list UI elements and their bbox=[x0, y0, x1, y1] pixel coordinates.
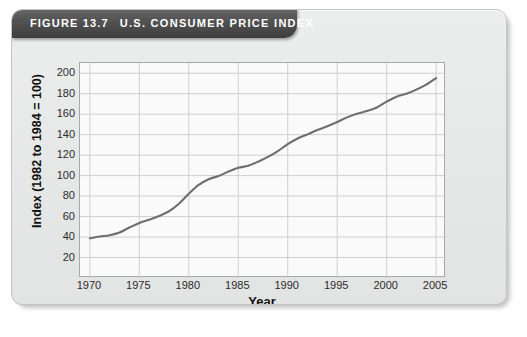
screenshot-root: FIGURE 13.7U.S. CONSUMER PRICE INDEX 204… bbox=[0, 0, 527, 337]
y-axis-tick-label: 180 bbox=[49, 87, 75, 99]
y-axis-tick-label: 100 bbox=[49, 169, 75, 181]
y-axis-tick-label: 200 bbox=[49, 66, 75, 78]
vertical-gridlines bbox=[90, 63, 436, 278]
x-axis-tick-label: 1975 bbox=[126, 279, 150, 291]
chart-region: 20406080100120140160180200 1970197519801… bbox=[12, 38, 506, 304]
x-axis-tick-label: 2000 bbox=[373, 279, 397, 291]
y-axis-tick-label: 160 bbox=[49, 107, 75, 119]
x-axis-tick-label: 1980 bbox=[176, 279, 200, 291]
source-note: Source: U.S. Bureau of Labor Statistics bbox=[30, 304, 230, 305]
y-axis-tick-label: 60 bbox=[49, 210, 75, 222]
x-axis-tick-label: 1970 bbox=[77, 279, 101, 291]
y-axis-tick-label: 20 bbox=[49, 251, 75, 263]
x-axis-tick-labels: 19701975198019851990199520002005 bbox=[79, 279, 445, 295]
y-axis-tick-label: 80 bbox=[49, 189, 75, 201]
plot-area bbox=[79, 62, 445, 277]
figure-title-label: U.S. CONSUMER PRICE INDEX bbox=[120, 17, 314, 29]
x-axis-tick-label: 1995 bbox=[324, 279, 348, 291]
y-axis-tick-label: 120 bbox=[49, 148, 75, 160]
chart-plot-svg bbox=[80, 63, 446, 278]
figure-number-label: FIGURE 13.7 bbox=[30, 17, 109, 29]
x-axis-tick-label: 1990 bbox=[274, 279, 298, 291]
figure-title-bar: FIGURE 13.7U.S. CONSUMER PRICE INDEX bbox=[12, 9, 297, 38]
y-axis-tick-label: 140 bbox=[49, 128, 75, 140]
figure-card: FIGURE 13.7U.S. CONSUMER PRICE INDEX 204… bbox=[11, 9, 507, 305]
y-axis-tick-labels: 20406080100120140160180200 bbox=[45, 62, 75, 277]
y-axis-tick-label: 40 bbox=[49, 230, 75, 242]
y-axis-title: Index (1982 to 1984 = 100) bbox=[30, 51, 44, 251]
x-axis-tick-label: 2005 bbox=[423, 279, 447, 291]
cpi-line-series bbox=[90, 78, 436, 238]
horizontal-gridlines bbox=[80, 73, 446, 257]
figure-title-text: FIGURE 13.7U.S. CONSUMER PRICE INDEX bbox=[30, 17, 314, 29]
x-axis-tick-label: 1985 bbox=[225, 279, 249, 291]
